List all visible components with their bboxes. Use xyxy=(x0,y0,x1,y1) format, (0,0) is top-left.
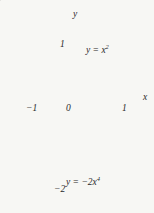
y-tick-label-neg2: −2 xyxy=(54,185,65,195)
y-tick-label-1: 1 xyxy=(60,40,65,50)
curve-label-parabola-text: y = x xyxy=(86,45,106,55)
y-axis-label: y xyxy=(73,10,77,20)
x-tick-label-pos1: 1 xyxy=(122,104,127,114)
curve-label-quartic-exponent: 4 xyxy=(97,175,100,182)
origin-label: 0 xyxy=(66,104,71,114)
x-tick-label-neg1: −1 xyxy=(26,104,37,114)
curve-label-quartic-text: y = −2x xyxy=(66,177,97,187)
x-axis-label: x xyxy=(143,93,147,103)
curve-label-quartic: y = −2x4 xyxy=(66,178,100,188)
curve-label-parabola: y = x2 xyxy=(86,46,109,56)
curve-label-parabola-exponent: 2 xyxy=(106,43,109,50)
math-figure-area-between-curves: y x −1 1 0 1 −2 y = x2 y = −2x4 xyxy=(0,0,154,213)
